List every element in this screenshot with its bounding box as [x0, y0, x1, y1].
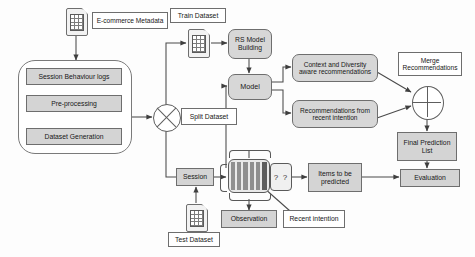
items-to-be-predicted-box: Items to be predicted: [308, 163, 362, 192]
diagram-canvas: E-commerce Metadata Session Behaviour lo…: [0, 0, 475, 257]
session-behaviour-logs-box: Session Behaviour logs: [26, 68, 122, 85]
merge-recommendations-label: Merge Recommendations: [398, 52, 462, 76]
observation-bracket: [229, 193, 271, 201]
sequence-top-bracket: [229, 150, 271, 158]
plus-stroke-v: [427, 87, 428, 117]
test-dataset-icon: [186, 204, 208, 232]
table-glyph: [70, 14, 84, 31]
dataset-generation-box: Dataset Generation: [26, 128, 122, 145]
final-prediction-list-box: Final Prediction List: [397, 132, 457, 161]
pre-processing-box: Pre-processing: [26, 95, 122, 112]
train-dataset-label: Train Dataset: [170, 8, 226, 23]
context-diversity-recommendations-box: Context and Diversity aware recommendati…: [292, 54, 378, 82]
split-dataset-operator-icon: [153, 104, 181, 132]
sequence-item: [250, 162, 254, 190]
ecommerce-metadata-icon: [66, 8, 88, 36]
sequence-item: [231, 162, 235, 190]
recent-intention-recommendations-box: Recommendations from recent intention: [292, 100, 378, 128]
recent-intention-box: Recent intention: [283, 210, 345, 228]
session-box: Session: [176, 168, 214, 186]
observation-box: Observation: [221, 210, 277, 228]
rs-model-building-box: RS Model Building: [228, 29, 272, 59]
table-glyph: [192, 35, 206, 53]
sequence-item: [243, 162, 247, 190]
evaluation-box: Evaluation: [400, 169, 460, 187]
unknown-items-box: ? ?: [270, 163, 292, 191]
session-open-bracket: [220, 164, 227, 192]
merge-operator-icon: [412, 86, 444, 120]
table-glyph: [190, 210, 204, 227]
ecommerce-metadata-label: E-commerce Metadata: [92, 12, 168, 29]
model-box: Model: [228, 74, 272, 100]
session-sequence-widget: [228, 159, 270, 193]
sequence-item: [256, 162, 260, 190]
train-dataset-icon: [188, 29, 210, 58]
test-dataset-label: Test Dataset: [168, 232, 220, 247]
sequence-item: [237, 162, 241, 190]
split-dataset-label: Split Dataset: [181, 108, 237, 125]
recent-intention-item: [262, 162, 267, 190]
